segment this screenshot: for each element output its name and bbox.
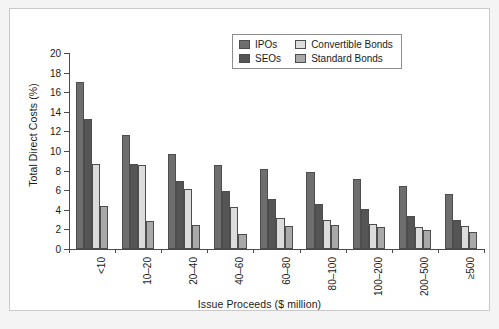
bar (423, 230, 431, 249)
bar (276, 218, 284, 249)
figure-canvas: Total Direct Costs (%) Issue Proceeds ($… (0, 0, 499, 329)
bar-group (214, 53, 246, 249)
x-tick-mark (346, 249, 347, 253)
x-tick-label: 80–100 (327, 257, 338, 290)
bar (453, 220, 461, 249)
bar (285, 226, 293, 249)
bar-group (445, 53, 477, 249)
legend-item: Convertible Bonds (295, 39, 393, 50)
bar (222, 191, 230, 249)
bar (92, 164, 100, 249)
bar (130, 164, 138, 249)
y-tick-label: 4 (35, 204, 61, 215)
y-tick-label: 16 (35, 87, 61, 98)
x-tick-mark (300, 249, 301, 253)
x-tick-label: 100–200 (373, 257, 384, 296)
x-axis-line (69, 249, 484, 250)
legend-item: Standard Bonds (295, 53, 393, 64)
bar (138, 165, 146, 249)
chart-legend: IPOsConvertible BondsSEOsStandard Bonds (232, 34, 402, 69)
bar (353, 179, 361, 249)
bar (445, 194, 453, 249)
plot-area: 02468101214161820 <1010–2020–4040–6060–8… (69, 53, 484, 249)
bar (76, 82, 84, 249)
legend-label: Convertible Bonds (311, 39, 393, 50)
legend-label: Standard Bonds (311, 53, 383, 64)
bar (168, 154, 176, 249)
bar (377, 227, 385, 249)
bar (100, 206, 108, 249)
x-tick-mark (484, 249, 485, 253)
y-tick-label: 20 (35, 48, 61, 59)
y-tick-mark (64, 210, 69, 211)
y-tick-label: 12 (35, 126, 61, 137)
bar (407, 216, 415, 249)
bar (230, 207, 238, 249)
x-tick-label: 60–80 (281, 257, 292, 285)
x-tick-label: 10–20 (142, 257, 153, 285)
bar (84, 119, 92, 249)
legend-swatch-icon (239, 54, 250, 63)
legend-item: SEOs (239, 53, 281, 64)
bar (461, 226, 469, 249)
y-tick-mark (64, 73, 69, 74)
y-tick-mark (64, 112, 69, 113)
y-tick-label: 6 (35, 185, 61, 196)
x-tick-label: 40–60 (234, 257, 245, 285)
bar-group (306, 53, 338, 249)
bar-group (122, 53, 154, 249)
legend-label: SEOs (255, 53, 281, 64)
x-tick-label: 20–40 (188, 257, 199, 285)
x-tick-label: <10 (96, 257, 107, 274)
bar-group (168, 53, 200, 249)
bar (361, 209, 369, 249)
bar (369, 224, 377, 249)
bar-group (399, 53, 431, 249)
bar (122, 135, 130, 249)
y-tick-mark (64, 229, 69, 230)
bar-group (76, 53, 108, 249)
y-tick-label: 8 (35, 165, 61, 176)
chart-frame: Total Direct Costs (%) Issue Proceeds ($… (9, 8, 490, 311)
x-tick-mark (161, 249, 162, 253)
y-tick-label: 2 (35, 224, 61, 235)
bar-group (260, 53, 292, 249)
bar (469, 232, 477, 249)
legend-swatch-icon (239, 40, 250, 49)
y-tick-label: 10 (35, 146, 61, 157)
y-tick-label: 18 (35, 67, 61, 78)
bar (415, 227, 423, 249)
x-tick-mark (69, 249, 70, 253)
bar (192, 225, 200, 250)
bar (306, 172, 314, 249)
legend-swatch-icon (295, 54, 306, 63)
bar (331, 225, 339, 249)
y-tick-mark (64, 53, 69, 54)
y-tick-label: 14 (35, 106, 61, 117)
bar (268, 199, 276, 249)
bar (184, 189, 192, 249)
y-tick-mark (64, 131, 69, 132)
bar (214, 165, 222, 249)
y-tick-mark (64, 92, 69, 93)
bar (176, 181, 184, 249)
x-tick-label: ≥500 (465, 257, 476, 279)
y-tick-mark (64, 171, 69, 172)
bar (238, 234, 246, 249)
x-axis-title: Issue Proceeds ($ million) (10, 298, 499, 310)
legend-swatch-icon (295, 40, 306, 49)
y-axis-line (69, 53, 70, 249)
bar (146, 221, 154, 249)
x-tick-mark (207, 249, 208, 253)
x-tick-mark (115, 249, 116, 253)
y-tick-mark (64, 190, 69, 191)
bar (399, 186, 407, 249)
bar (260, 169, 268, 249)
bar (323, 220, 331, 249)
bar (315, 204, 323, 249)
y-tick-label: 0 (35, 244, 61, 255)
x-tick-mark (392, 249, 393, 253)
y-tick-mark (64, 151, 69, 152)
x-tick-mark (438, 249, 439, 253)
legend-item: IPOs (239, 39, 281, 50)
